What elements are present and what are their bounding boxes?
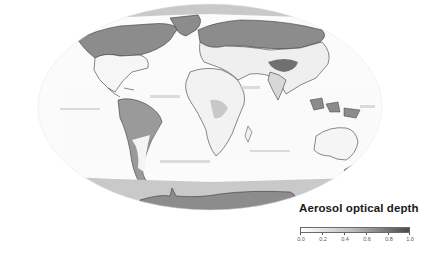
colorbar-ticks: 0.0 0.2 0.4 0.6 0.8 1.0 — [296, 236, 416, 244]
tick-mark — [388, 233, 389, 235]
tick-label: 0.0 — [297, 236, 305, 242]
tick-mark — [300, 233, 301, 235]
tick-mark — [344, 233, 345, 235]
tick-label: 0.8 — [385, 236, 393, 242]
tick-mark — [322, 233, 323, 235]
legend-title: Aerosol optical depth — [299, 202, 419, 214]
tick-label: 0.2 — [319, 236, 327, 242]
tick-label: 0.6 — [363, 236, 371, 242]
tick-mark — [409, 233, 410, 235]
tick-label: 0.4 — [341, 236, 349, 242]
tick-label: 1.0 — [406, 236, 414, 242]
world-aerosol-map — [0, 0, 426, 255]
globe — [30, 0, 400, 255]
tick-mark — [366, 233, 367, 235]
colorbar — [300, 227, 410, 233]
